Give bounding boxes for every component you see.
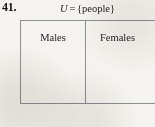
set-region-males: Males [21,21,86,103]
universe-symbol: U [60,3,68,14]
equals-sign: = [68,3,77,14]
exercise-figure: 41. U={people} Males Females [0,0,155,127]
universe-set-definition: {people} [77,3,115,14]
set-region-males-label: Males [21,31,85,44]
set-region-females: Females [86,21,155,103]
set-region-females-label: Females [100,31,135,44]
universe-caption: U={people} [20,2,155,15]
set-diagram-box: Males Females [20,20,155,104]
exercise-number: 41. [2,1,16,14]
